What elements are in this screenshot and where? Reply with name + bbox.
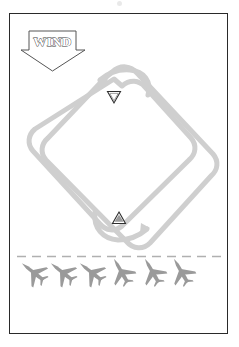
flight-path-inner-circuit — [29, 79, 195, 230]
position-markers — [108, 92, 126, 224]
aircraft-5 — [134, 253, 170, 291]
aircraft-2 — [43, 254, 81, 291]
wind-label: WIND — [33, 34, 71, 49]
downwind-marker — [108, 92, 121, 104]
aircraft-row — [14, 253, 199, 291]
figure-page: WIND WIND — [0, 0, 239, 347]
wind-indicator: WIND — [21, 31, 85, 71]
upwind-marker — [113, 212, 126, 224]
traffic-pattern-diagram: WIND — [0, 0, 239, 347]
aircraft-6 — [163, 253, 199, 291]
aircraft-3 — [72, 254, 110, 291]
aircraft-1 — [14, 254, 52, 291]
aircraft-4 — [103, 253, 139, 291]
